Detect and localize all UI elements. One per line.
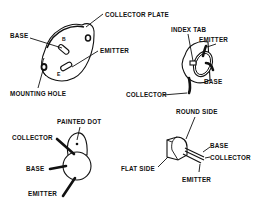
base-label: BASE (210, 142, 228, 149)
base-label: BASE (26, 165, 44, 172)
mounting-hole-label: MOUNTING HOLE (10, 90, 66, 97)
emitter-label: EMITTER (199, 36, 228, 43)
round-side-label: ROUND SIDE (176, 108, 218, 115)
collector-label: COLLECTOR (126, 91, 167, 98)
collector-label: COLLECTOR (12, 134, 53, 141)
painted-dot-label: PAINTED DOT (57, 118, 101, 125)
base-label: BASE (204, 78, 222, 85)
flat-side-label: FLAT SIDE (121, 165, 155, 172)
index-tab-label: INDEX TAB (171, 26, 207, 33)
plastic-flat-side-package: ROUND SIDE BASE COLLECTOR EMITTER FLAT S… (121, 108, 251, 183)
metal-can-package: INDEX TAB EMITTER BASE COLLECTOR (126, 26, 228, 98)
base-label: BASE (10, 32, 28, 39)
transistor-diagram: B E COLLECTOR PLATE BASE EMITTER MOUNTIN… (0, 0, 265, 209)
emitter-label: EMITTER (28, 190, 57, 197)
collector-label: COLLECTOR (210, 154, 251, 161)
painted-dot-package: PAINTED DOT COLLECTOR BASE EMITTER (12, 118, 101, 197)
emitter-label: EMITTER (100, 47, 129, 54)
emitter-label: EMITTER (182, 176, 211, 183)
power-case-package: B E COLLECTOR PLATE BASE EMITTER MOUNTIN… (10, 11, 169, 97)
pin-b-label: B (62, 36, 66, 42)
collector-plate-label: COLLECTOR PLATE (105, 11, 169, 18)
